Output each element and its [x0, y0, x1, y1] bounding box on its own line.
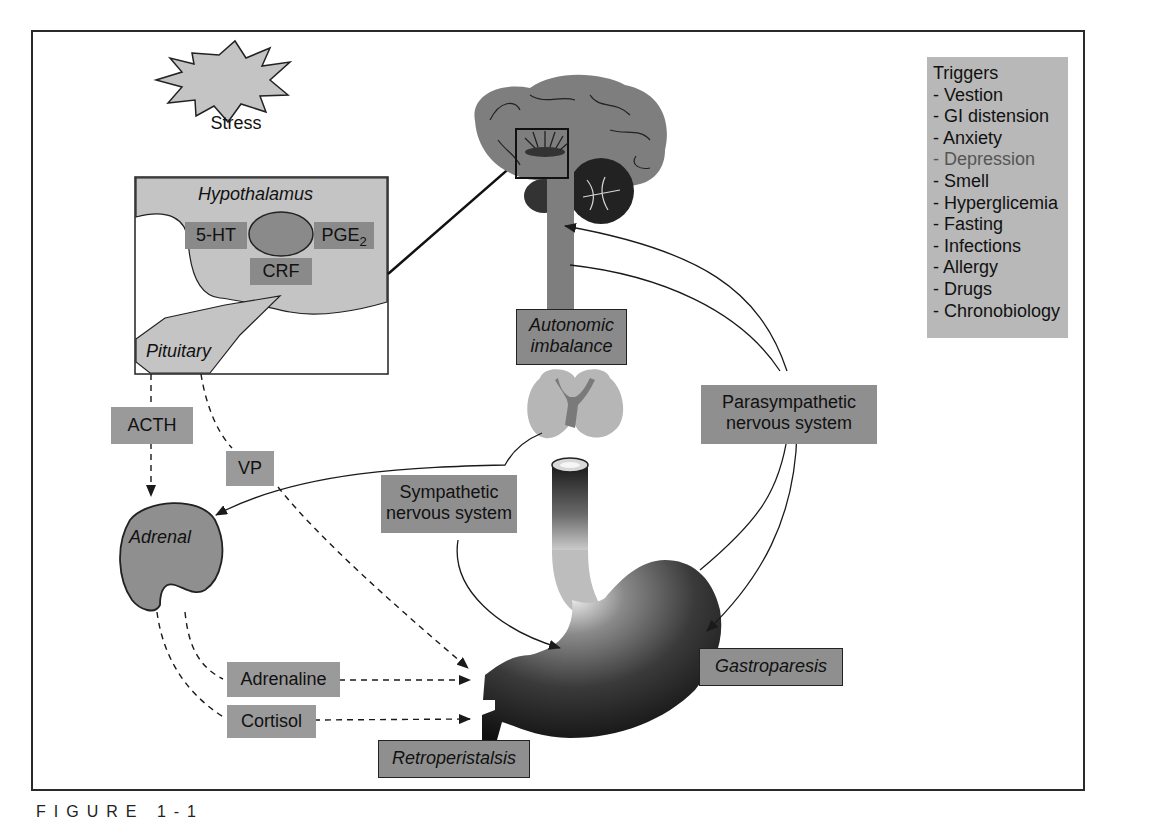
cortisol-label: Cortisol: [227, 705, 316, 738]
serotonin-label: 5-HT: [185, 222, 247, 249]
pge2-label: PGE2: [314, 222, 374, 249]
autonomic-line1: Autonomic: [517, 315, 626, 336]
parasympathetic-line1: Parasympathetic: [701, 392, 877, 413]
parasympathetic-label: Parasympathetic nervous system: [701, 385, 877, 444]
autonomic-imbalance-label: Autonomic imbalance: [516, 309, 627, 365]
figure-caption: FIGURE 1-1: [36, 803, 204, 821]
crf-label: CRF: [250, 258, 312, 285]
trigger-item: - Drugs: [933, 279, 1062, 301]
brain-illustration: [474, 75, 666, 330]
trigger-item: - GI distension: [933, 106, 1062, 128]
triggers-list: Triggers - Vestion - GI distension - Anx…: [927, 57, 1068, 338]
sympathetic-line1: Sympathetic: [381, 482, 517, 503]
trigger-item: - Smell: [933, 171, 1062, 193]
sympathetic-label: Sympathetic nervous system: [381, 475, 517, 533]
trigger-item: - Hyperglicemia: [933, 193, 1062, 215]
acth-label: ACTH: [111, 407, 193, 444]
trigger-item: - Vestion: [933, 85, 1062, 107]
pituitary-label: Pituitary: [146, 341, 211, 362]
trigger-item: - Anxiety: [933, 128, 1062, 150]
trigger-item: - Fasting: [933, 214, 1062, 236]
retroperistalsis-label: Retroperistalsis: [378, 740, 530, 778]
stress-burst: [156, 41, 290, 122]
sympathetic-line2: nervous system: [381, 503, 517, 524]
spinal-cord-section: [527, 369, 623, 438]
trigger-item: - Depression: [933, 149, 1062, 171]
stomach-illustration: [482, 560, 721, 740]
adrenal-label: Adrenal: [129, 527, 191, 548]
stress-label: Stress: [210, 113, 261, 134]
pge2-main: PGE: [321, 225, 359, 245]
gastroparesis-label: Gastroparesis: [699, 648, 843, 686]
trigger-item: - Allergy: [933, 257, 1062, 279]
vp-label: VP: [226, 451, 274, 486]
triggers-title: Triggers: [933, 63, 1062, 85]
adrenal-gland: [120, 503, 222, 610]
parasympathetic-line2: nervous system: [701, 413, 877, 434]
hypothalamus-title: Hypothalamus: [198, 184, 313, 205]
autonomic-line2: imbalance: [517, 336, 626, 357]
trigger-item: - Chronobiology: [933, 301, 1062, 323]
esophagus-illustration: [552, 458, 600, 610]
pge2-subscript: 2: [359, 234, 366, 249]
trigger-item: - Infections: [933, 236, 1062, 258]
adrenaline-label: Adrenaline: [227, 662, 340, 697]
